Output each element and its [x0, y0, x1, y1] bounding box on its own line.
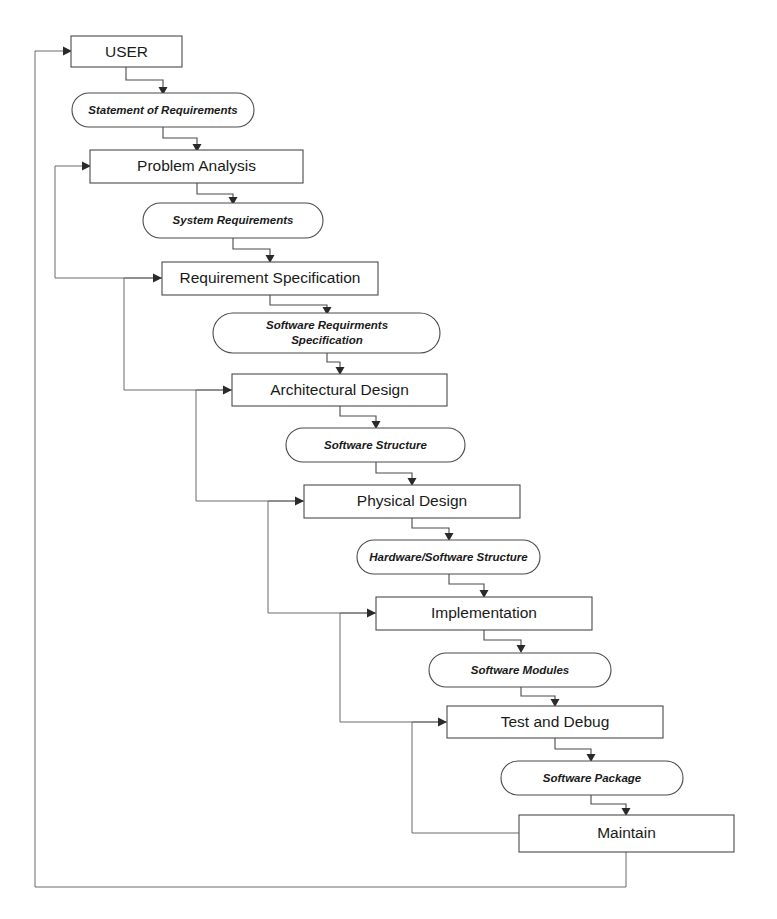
connector-test-and-debug-to-software-package	[555, 738, 596, 762]
stage-physical-design[interactable]: Physical Design	[304, 485, 520, 518]
connector-software-package-to-maintain	[591, 795, 631, 816]
artifact-hardware-software-structure-label: Hardware/Software Structure	[369, 551, 528, 563]
stage-architectural-design[interactable]: Architectural Design	[232, 374, 447, 406]
stage-architectural-design-label: Architectural Design	[270, 381, 409, 398]
stage-requirement-specification-label: Requirement Specification	[180, 269, 361, 286]
artifact-software-modules-label: Software Modules	[471, 664, 569, 676]
stage-implementation[interactable]: Implementation	[376, 597, 592, 630]
stage-physical-design-label: Physical Design	[357, 492, 467, 509]
stage-problem-analysis-label: Problem Analysis	[137, 157, 256, 174]
connector-hw-sw-structure-to-implementation	[449, 574, 489, 598]
artifact-software-requirments-specification-line2: Specification	[291, 334, 363, 346]
stage-implementation-label: Implementation	[431, 604, 537, 621]
artifact-statement-of-requirements[interactable]: Statement of Requirements	[72, 93, 254, 127]
artifact-software-modules[interactable]: Software Modules	[429, 653, 611, 687]
artifact-system-requirements-label: System Requirements	[173, 214, 294, 226]
waterfall-diagram: USER Problem Analysis Requirement Specif…	[0, 0, 777, 919]
stage-test-and-debug-label: Test and Debug	[501, 713, 610, 730]
connector-system-requirements-to-requirement-spec	[233, 238, 275, 263]
connector-sw-req-spec-to-architectural-design	[327, 353, 345, 375]
connector-user-to-statement-of-requirements	[126, 67, 168, 95]
stage-test-and-debug[interactable]: Test and Debug	[447, 706, 663, 738]
artifact-software-structure-label: Software Structure	[324, 439, 427, 451]
artifact-system-requirements[interactable]: System Requirements	[143, 203, 323, 238]
artifact-software-requirments-specification[interactable]: Software Requirments Specification	[213, 313, 440, 353]
stage-user-label: USER	[105, 43, 148, 60]
stage-maintain-label: Maintain	[597, 824, 656, 841]
connector-physical-design-to-hw-sw-structure	[412, 518, 454, 541]
connector-requirement-spec-to-sw-req-spec	[270, 295, 332, 315]
artifact-hardware-software-structure[interactable]: Hardware/Software Structure	[357, 540, 540, 574]
connector-architectural-design-to-software-structure	[340, 405, 381, 429]
connector-software-structure-to-physical-design	[376, 462, 417, 486]
artifact-software-package-label: Software Package	[543, 772, 642, 784]
artifact-software-package[interactable]: Software Package	[501, 761, 683, 795]
stage-problem-analysis[interactable]: Problem Analysis	[90, 150, 303, 183]
connector-problem-analysis-to-system-requirements	[197, 183, 238, 205]
stage-requirement-specification[interactable]: Requirement Specification	[162, 262, 378, 295]
artifact-statement-of-requirements-label: Statement of Requirements	[88, 104, 238, 116]
waterfall-diagram-canvas: USER Problem Analysis Requirement Specif…	[0, 0, 777, 919]
connector-software-modules-to-test-and-debug	[521, 687, 560, 707]
artifact-software-structure[interactable]: Software Structure	[286, 428, 465, 462]
connector-implementation-to-software-modules	[484, 630, 526, 653]
stage-user[interactable]: USER	[71, 36, 182, 67]
stage-maintain[interactable]: Maintain	[519, 815, 734, 852]
artifact-software-requirments-specification-line1: Software Requirments	[266, 319, 388, 331]
connector-statement-to-problem-analysis	[163, 127, 202, 152]
